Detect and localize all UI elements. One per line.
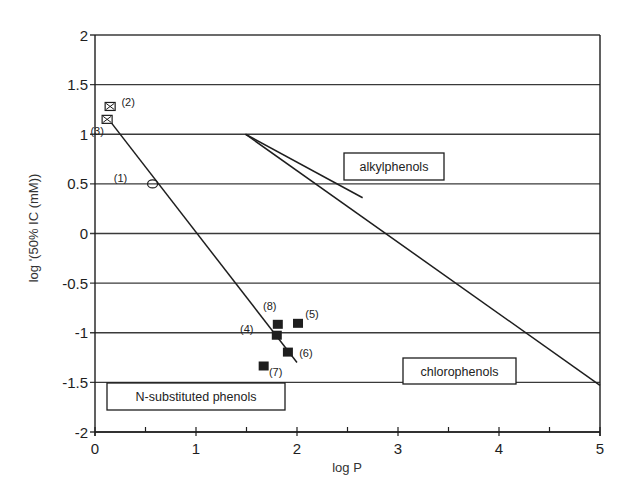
x-tick-label: 2 [293, 440, 301, 457]
y-tick-labels: 21.510.50-0.5-1-1.5-2 [62, 27, 88, 441]
data-point: (5) [293, 308, 319, 328]
y-tick-label: 1.5 [67, 76, 88, 93]
chlorophenols-box: chlorophenols [403, 358, 516, 384]
plot-frame [95, 35, 600, 436]
data-point: (6) [283, 347, 313, 359]
grid-lines [90, 35, 600, 432]
data-point: (8) [263, 300, 283, 329]
filled-square-marker [272, 331, 282, 340]
y-tick-label: 2 [80, 27, 88, 44]
x-tick-label: 1 [192, 440, 200, 457]
annotation-label: N-substituted phenols [136, 390, 257, 404]
data-point: (2) [105, 96, 135, 110]
x-tick-label: 5 [596, 440, 604, 457]
point-label: (3) [90, 125, 103, 137]
data-points: (1)(2)(3)(4)(5)(6)(7)(8) [90, 96, 318, 378]
y-axis-label: log '(50% IC (mM)) [26, 174, 41, 283]
y-tick-label: 1 [80, 126, 88, 143]
data-point: (7) [259, 361, 283, 378]
chart: 012345 21.510.50-0.5-1-1.5-2 (1)(2)(3)(4… [0, 0, 635, 498]
y-tick-label: -2 [75, 424, 88, 441]
y-tick-label: -1.5 [62, 374, 88, 391]
point-label: (1) [114, 172, 127, 184]
x-tick-label: 0 [91, 440, 99, 457]
point-label: (6) [299, 347, 312, 359]
y-tick-label: -1 [75, 324, 88, 341]
y-tick-label: 0 [80, 225, 88, 242]
filled-square-marker [283, 348, 293, 357]
x-tick-label: 4 [495, 440, 503, 457]
y-tick-label: -0.5 [62, 275, 88, 292]
point-label: (8) [263, 300, 276, 312]
filled-square-marker [273, 320, 283, 329]
x-tick-label: 3 [394, 440, 402, 457]
y-tick-label: 0.5 [67, 175, 88, 192]
point-label: (4) [240, 323, 253, 335]
annotation-label: chlorophenols [421, 365, 499, 379]
point-label: (5) [305, 308, 318, 320]
filled-square-marker [259, 361, 269, 370]
alkylphenols-box: alkylphenols [344, 153, 444, 180]
annotation-label: alkylphenols [360, 160, 429, 174]
n-substituted-phenols-line [107, 117, 297, 362]
n-substituted-phenols-box: N-substituted phenols [107, 383, 285, 410]
x-axis-label: log P [332, 460, 362, 475]
point-label: (7) [269, 366, 282, 378]
filled-square-marker [293, 319, 303, 328]
point-label: (2) [121, 96, 134, 108]
